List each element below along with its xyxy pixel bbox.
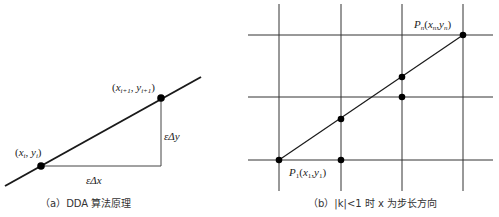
panel-b-grid: P1(x1,y1) Pn(xn,yn) （b）|k|<1 时 x 为步长方向 (248, 4, 493, 210)
point-i-label: (xi, yi) (15, 146, 42, 160)
dx-label: εΔx (86, 174, 102, 186)
end-point-label: Pn(xn,yn) (413, 18, 451, 32)
point-i-dot (37, 162, 45, 170)
point-i1-label: (xi+1, yi+1) (112, 81, 155, 95)
caption-a: （a）DDA 算法原理 (40, 197, 131, 209)
point-i1-dot (157, 94, 165, 102)
panel-a-dda-principle: (xi, yi) (xi+1, yi+1) εΔy εΔx （a）DDA 算法原… (5, 77, 201, 209)
dy-label: εΔy (164, 130, 180, 142)
dda-diagram: (xi, yi) (xi+1, yi+1) εΔy εΔx （a）DDA 算法原… (0, 0, 499, 217)
start-point-label: P1(x1,y1) (288, 166, 326, 180)
caption-b: （b）|k|<1 时 x 为步长方向 (308, 197, 437, 210)
